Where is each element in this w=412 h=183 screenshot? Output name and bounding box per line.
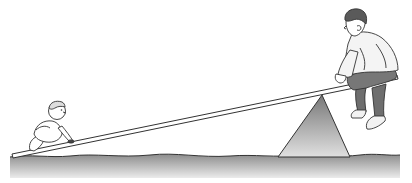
ground: [10, 154, 400, 178]
seesaw-illustration: Seesaw illustration: a baby crawling on …: [0, 0, 412, 183]
fulcrum-triangle: [278, 95, 350, 157]
man-figure: [335, 9, 398, 129]
